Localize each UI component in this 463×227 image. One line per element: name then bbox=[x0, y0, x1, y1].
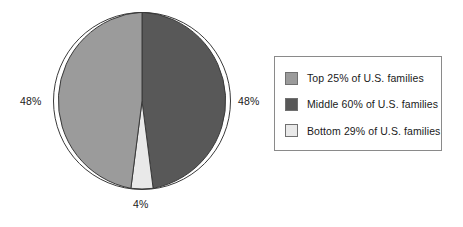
slice-value-label-bottom: 4% bbox=[133, 198, 149, 210]
pie-chart bbox=[53, 12, 231, 190]
legend-swatch-middle-60 bbox=[285, 98, 298, 111]
pie-svg bbox=[53, 12, 231, 190]
legend-item-bottom-29[interactable]: Bottom 29% of U.S. families bbox=[285, 122, 435, 140]
pie-slice-top-25[interactable] bbox=[58, 12, 142, 188]
legend-swatch-top-25 bbox=[285, 72, 298, 85]
slice-value-label-right: 48% bbox=[238, 95, 260, 107]
pie-chart-figure: 48% 48% 4% Top 25% of U.S. families Midd… bbox=[0, 0, 463, 227]
legend-label-bottom-29: Bottom 29% of U.S. families bbox=[307, 125, 440, 137]
legend-item-top-25[interactable]: Top 25% of U.S. families bbox=[285, 69, 435, 87]
slice-value-label-left: 48% bbox=[20, 95, 42, 107]
legend-box: Top 25% of U.S. families Middle 60% of U… bbox=[274, 56, 442, 151]
legend-label-top-25: Top 25% of U.S. families bbox=[307, 72, 424, 84]
legend-label-middle-60: Middle 60% of U.S. families bbox=[307, 98, 438, 110]
legend-items: Top 25% of U.S. families Middle 60% of U… bbox=[285, 65, 435, 144]
pie-slice-middle-60[interactable] bbox=[142, 12, 226, 188]
legend-swatch-bottom-29 bbox=[285, 124, 298, 137]
legend-item-middle-60[interactable]: Middle 60% of U.S. families bbox=[285, 95, 435, 113]
